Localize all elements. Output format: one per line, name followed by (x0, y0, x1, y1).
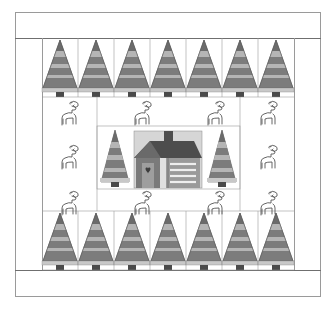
top-tree-row (42, 40, 294, 97)
quilt-artwork (0, 0, 336, 311)
center-panel (100, 130, 237, 188)
bottom-tree-row (42, 213, 294, 270)
